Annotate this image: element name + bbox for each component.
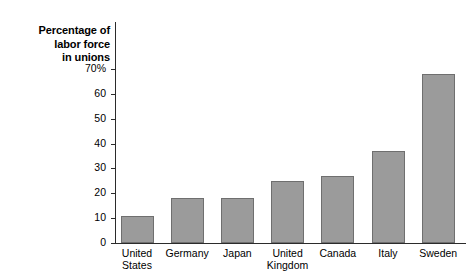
x-axis-label-sweden: Sweden	[401, 247, 475, 259]
bar-series	[115, 22, 466, 243]
y-tick-label: 60	[26, 88, 106, 99]
x-axis-label-line: Kingdom	[251, 259, 325, 271]
bar-japan	[221, 198, 254, 243]
y-tick-mark	[111, 243, 116, 244]
y-axis-caption: Percentage of labor force in unions	[8, 24, 110, 65]
bar-united-kingdom	[271, 181, 304, 243]
y-tick-label: 50	[26, 113, 106, 124]
y-tick-label: 70%	[26, 63, 106, 74]
y-tick-label: 10	[26, 212, 106, 223]
y-tick-label: 30	[26, 162, 106, 173]
bar-chart-figure: Percentage of labor force in unions 0102…	[0, 0, 475, 274]
bar-united-states	[121, 216, 154, 243]
bar-sweden	[422, 74, 455, 243]
bar-canada	[321, 176, 354, 243]
x-axis-line	[115, 243, 466, 244]
bar-germany	[171, 198, 204, 243]
y-axis-caption-line-1: Percentage of	[8, 24, 110, 38]
y-tick-label: 0	[26, 237, 106, 248]
y-tick-label: 20	[26, 187, 106, 198]
y-tick-label: 40	[26, 138, 106, 149]
x-axis-label-line: Sweden	[401, 247, 475, 259]
x-axis-label-line: States	[100, 259, 174, 271]
bar-italy	[372, 151, 405, 243]
y-axis-caption-line-2: labor force	[8, 38, 110, 52]
